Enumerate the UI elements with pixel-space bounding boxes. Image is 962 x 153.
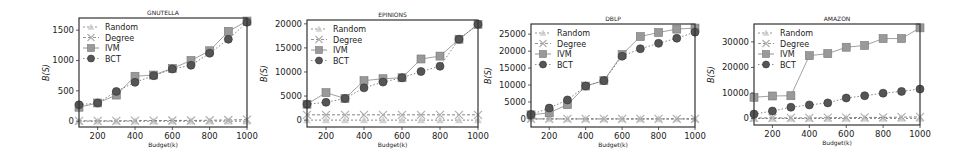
legend-label: BCT [105,55,121,64]
series-line-ivm [531,28,695,115]
legend-label: IVM [105,44,120,53]
data-point-bct [861,92,869,100]
x-tick-label: 200 [541,131,557,141]
series-line-degree [79,120,247,121]
data-point-ivm [805,52,813,60]
data-point-bct [582,82,590,90]
y-tick-label: 10000 [722,88,749,98]
data-point-bct [842,94,850,102]
legend: RandomDegreeIVMBCT [83,23,138,64]
data-point-bct [455,35,463,43]
data-point-bct [206,49,214,57]
x-tick-label: 600 [394,131,410,141]
series-line-bct [754,89,920,114]
legend-marker-ivm [316,47,323,54]
y-tick-label: 1000 [52,55,74,65]
data-point-ivm [224,27,232,35]
data-point-ivm [322,89,330,97]
data-point-bct [545,104,553,112]
data-point-bct [824,99,832,107]
data-point-bct [131,78,139,86]
x-tick-label: 1000 [909,129,931,139]
data-point-ivm [360,77,368,85]
data-point-bct [224,35,232,43]
x-tick-label: 400 [127,131,143,141]
data-point-bct [360,84,368,92]
series-line-ivm [754,28,920,97]
legend-label: Random [333,25,366,34]
data-point-bct [768,107,776,115]
chart-panel-amazon: AMAZON01000020000300002004006008001000Bu… [707,15,931,147]
data-point-ivm [842,43,850,51]
data-point-ivm [436,52,444,60]
legend-label: IVM [333,46,348,55]
x-tick-label: 200 [318,131,334,141]
legend: RandomDegreeIVMBCT [311,25,366,66]
legend-label: Random [105,23,138,32]
data-point-ivm [768,92,776,100]
chart-title: GNUTELLA [147,9,180,16]
legend-marker-bct [88,55,95,62]
data-point-ivm [636,33,644,41]
data-point-bct [150,72,158,80]
y-axis-label: B(S) [484,67,493,84]
legend-marker-ivm [763,51,770,58]
data-point-bct [618,52,626,60]
data-point-bct [322,98,330,106]
legend-marker-bct [540,61,547,68]
series-line-degree [754,117,920,118]
legend-label: BCT [557,61,573,70]
data-point-ivm [898,35,906,43]
y-tick-label: 0 [744,113,749,123]
chart-title: AMAZON [824,15,851,22]
legend-label: Degree [105,34,134,43]
x-axis-label: Budget(k) [822,139,852,147]
x-tick-label: 800 [432,131,448,141]
y-tick-label: 10000 [275,67,302,77]
data-point-ivm [673,25,681,33]
legend-label: BCT [780,61,796,70]
data-point-bct [417,68,425,76]
y-tick-label: 0 [69,116,74,126]
data-point-bct [898,87,906,95]
legend-marker-ivm [540,51,547,58]
data-point-bct [94,99,102,107]
y-axis-label: B(S) [707,66,716,83]
data-point-bct [805,101,813,109]
legend-label: Random [557,29,590,38]
data-point-ivm [824,50,832,58]
y-tick-label: 5000 [504,97,526,107]
data-point-bct [112,87,120,95]
x-tick-label: 200 [90,131,106,141]
chart-title: DBLP [605,15,621,22]
x-tick-label: 800 [202,131,218,141]
data-point-bct [398,74,406,82]
data-point-ivm [879,35,887,43]
y-tick-label: 30000 [722,37,749,47]
legend-label: IVM [557,50,572,59]
x-tick-label: 400 [801,129,817,139]
x-axis-label: Budget(k) [378,141,408,149]
y-tick-label: 15000 [499,63,526,73]
x-tick-label: 400 [578,131,594,141]
y-tick-label: 0 [521,114,526,124]
data-point-bct [787,103,795,111]
legend-label: BCT [333,57,349,66]
x-axis-label: Budget(k) [598,141,628,149]
plot-frame [531,24,695,127]
legend-label: Degree [557,40,586,49]
data-point-bct [673,34,681,42]
x-tick-label: 1000 [684,131,706,141]
x-tick-label: 1000 [236,131,258,141]
y-tick-label: 20000 [275,19,302,29]
chart-panel-epinions: EPINIONS05000100001500020000200400600800… [260,11,489,149]
y-tick-label: 15000 [275,43,302,53]
y-tick-label: 5000 [280,91,302,101]
data-point-bct [341,94,349,102]
data-point-bct [168,65,176,73]
y-tick-label: 500 [58,86,74,96]
data-point-bct [879,89,887,97]
data-point-bct [379,78,387,86]
chart-panel-gnutella: GNUTELLA0500100015002004006008001000Budg… [42,9,258,149]
x-tick-label: 600 [164,131,180,141]
